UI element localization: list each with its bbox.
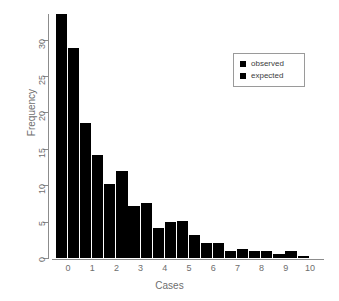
- bar-expected-4: [165, 222, 176, 258]
- legend-item-observed: observed: [240, 58, 299, 70]
- x-tick-label: 6: [211, 263, 216, 273]
- legend-item-label: expected: [251, 72, 283, 80]
- bar-chart-figure: Frequency 051015202530 012345678910 Case…: [0, 0, 339, 301]
- x-tick-label: 2: [114, 263, 119, 273]
- bar-expected-3: [141, 203, 152, 258]
- y-tick-label: 15: [37, 148, 47, 158]
- legend-item-label: observed: [251, 60, 284, 68]
- bar-observed-5: [177, 221, 188, 258]
- bar-expected-5: [189, 235, 200, 258]
- bar-observed-10: [298, 256, 309, 258]
- x-axis-title: Cases: [0, 280, 339, 291]
- filled-square-icon: [240, 61, 246, 67]
- y-tick-label: 25: [37, 75, 47, 85]
- x-tick-label: 5: [186, 263, 191, 273]
- x-tick-label: 4: [162, 263, 167, 273]
- filled-square-icon: [240, 73, 246, 79]
- bar-observed-8: [249, 251, 260, 258]
- bar-observed-0: [56, 14, 67, 258]
- x-tick-label: 0: [66, 263, 71, 273]
- chart-legend: observed expected: [233, 53, 305, 87]
- x-tick-label: 8: [259, 263, 264, 273]
- y-tick-label: 5: [37, 221, 47, 226]
- legend-item-expected: expected: [240, 70, 299, 82]
- x-tick-label: 3: [138, 263, 143, 273]
- bar-observed-7: [225, 251, 236, 258]
- bar-expected-9: [285, 251, 296, 258]
- bar-expected-6: [213, 243, 224, 258]
- y-tick-label: 10: [37, 184, 47, 194]
- bar-observed-9: [273, 254, 284, 258]
- x-tick-label: 1: [90, 263, 95, 273]
- bar-observed-1: [80, 123, 91, 258]
- bar-observed-4: [153, 228, 164, 258]
- x-axis-line: [52, 259, 324, 260]
- x-tick-label: 9: [283, 263, 288, 273]
- bar-expected-0: [68, 48, 79, 258]
- y-axis-line: [48, 14, 49, 259]
- bar-observed-2: [104, 184, 115, 258]
- bar-series-group: [56, 14, 322, 258]
- plot-area: [56, 14, 322, 258]
- y-axis-title: Frequency: [26, 73, 37, 153]
- bar-expected-2: [116, 171, 127, 258]
- bar-expected-7: [237, 249, 248, 258]
- bar-observed-6: [201, 243, 212, 258]
- bar-observed-3: [128, 206, 139, 258]
- bar-expected-1: [92, 155, 103, 258]
- y-tick-label: 30: [37, 39, 47, 49]
- y-tick-label: 20: [37, 111, 47, 121]
- x-tick-label: 7: [235, 263, 240, 273]
- x-tick-label: 10: [305, 263, 315, 273]
- y-tick-label: 0: [37, 257, 47, 262]
- bar-expected-8: [261, 251, 272, 258]
